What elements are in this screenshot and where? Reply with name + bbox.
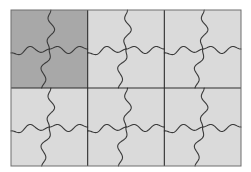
- tessellation-diagram: [0, 0, 251, 172]
